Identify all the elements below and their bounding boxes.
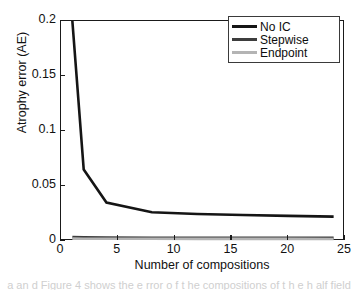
chart-figure: 0 0.05 0.1 0.15 0.2 0 5 10 15 20 25 Atro… [0, 0, 358, 290]
x-tick-mark-5 [117, 235, 118, 240]
y-tick-mark-2 [60, 130, 65, 131]
x-tick-label-10: 10 [167, 243, 181, 256]
y-tick-label-3: 0.15 [32, 68, 56, 81]
legend-swatch-stepwise [232, 38, 257, 41]
legend-item-stepwise[interactable]: Stepwise [232, 33, 335, 46]
y-tick-label-0: 0 [49, 233, 56, 246]
x-tick-mark-25 [344, 235, 345, 240]
y-tick-mark-1 [60, 185, 65, 186]
legend: No IC Stepwise Endpoint [228, 16, 340, 63]
x-tick-label-0: 0 [57, 243, 64, 256]
legend-item-endpoint[interactable]: Endpoint [232, 46, 335, 59]
caption-bleed-text: a an d Figure 4 shows the e rror o f t h… [0, 279, 358, 290]
x-tick-label-15: 15 [223, 243, 237, 256]
x-tick-mark-10 [174, 235, 175, 240]
y-tick-label-1: 0.05 [32, 178, 56, 191]
legend-label-endpoint: Endpoint [260, 47, 307, 59]
legend-label-stepwise: Stepwise [260, 34, 309, 46]
x-tick-label-25: 25 [337, 243, 351, 256]
x-tick-mark-0 [60, 235, 61, 240]
y-tick-label-2: 0.1 [39, 123, 56, 136]
x-tick-label-5: 5 [113, 243, 120, 256]
legend-label-no-ic: No IC [260, 21, 291, 33]
y-tick-label-4: 0.2 [39, 13, 56, 26]
legend-swatch-endpoint [232, 51, 257, 54]
y-axis-title: Atrophy error (AE) [16, 0, 29, 168]
legend-item-no-ic[interactable]: No IC [232, 20, 335, 33]
x-tick-mark-20 [287, 235, 288, 240]
x-tick-label-20: 20 [280, 243, 294, 256]
y-tick-mark-3 [60, 75, 65, 76]
x-axis-title: Number of compositions [60, 259, 344, 272]
legend-swatch-no-ic [232, 25, 257, 28]
x-tick-mark-15 [230, 235, 231, 240]
y-tick-mark-4 [60, 20, 65, 21]
